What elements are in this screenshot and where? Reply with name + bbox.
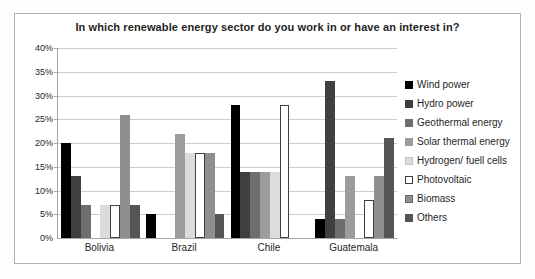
legend-item-geothermal-energy: Geothermal energy bbox=[405, 113, 510, 132]
y-tick-label-35: 35% bbox=[35, 67, 53, 77]
x-axis-label-bolivia: Bolivia bbox=[85, 242, 114, 253]
legend-item-hydro-power: Hydro power bbox=[405, 94, 510, 113]
bar-brazil-hydrogen-fuell-cells bbox=[185, 153, 195, 239]
bar-guatemala-others bbox=[384, 138, 394, 238]
legend-label-solar-thermal-energy: Solar thermal energy bbox=[417, 136, 510, 147]
legend-item-biomass: Biomass bbox=[405, 189, 510, 208]
bar-bolivia-hydro-power bbox=[71, 176, 81, 238]
legend-swatch-geothermal-energy-icon bbox=[405, 119, 413, 127]
x-axis-label-brazil: Brazil bbox=[172, 242, 197, 253]
legend-label-wind-power: Wind power bbox=[417, 79, 470, 90]
bar-brazil-solar-thermal-energy bbox=[175, 134, 185, 239]
bar-bolivia-biomass bbox=[120, 115, 130, 239]
legend-swatch-hydro-power-icon bbox=[405, 100, 413, 108]
y-tick-label-10: 10% bbox=[35, 186, 53, 196]
bar-bolivia-others bbox=[130, 205, 140, 238]
legend-swatch-solar-thermal-energy-icon bbox=[405, 138, 413, 146]
bar-chile-wind-power bbox=[231, 105, 241, 238]
legend-item-wind-power: Wind power bbox=[405, 75, 510, 94]
bar-bolivia-wind-power bbox=[61, 143, 71, 238]
legend-item-others: Others bbox=[405, 208, 510, 227]
legend-swatch-photovoltaic-icon bbox=[405, 176, 413, 184]
chart-title: In which renewable energy sector do you … bbox=[15, 21, 520, 33]
legend-swatch-wind-power-icon bbox=[405, 81, 413, 89]
y-tick bbox=[54, 143, 58, 144]
legend-swatch-biomass-icon bbox=[405, 195, 413, 203]
bar-chile-hydrogen-fuell-cells bbox=[270, 172, 280, 239]
y-tick bbox=[54, 72, 58, 73]
bar-guatemala-biomass bbox=[374, 176, 384, 238]
gridline-30 bbox=[58, 96, 397, 97]
legend-label-others: Others bbox=[417, 212, 447, 223]
y-tick-label-20: 20% bbox=[35, 138, 53, 148]
bar-chile-geothermal-energy bbox=[250, 172, 260, 239]
chart-frame: In which renewable energy sector do you … bbox=[14, 13, 521, 264]
y-tick-label-0: 0% bbox=[40, 233, 53, 243]
gridline-35 bbox=[58, 72, 397, 73]
y-tick-label-15: 15% bbox=[35, 162, 53, 172]
legend: Wind powerHydro powerGeothermal energySo… bbox=[405, 75, 510, 227]
bar-chile-photovoltaic bbox=[280, 105, 290, 238]
y-tick bbox=[54, 119, 58, 120]
legend-label-geothermal-energy: Geothermal energy bbox=[417, 117, 503, 128]
bar-guatemala-geothermal-energy bbox=[335, 219, 345, 238]
y-axis-labels: 0%5%10%15%20%25%30%35%40% bbox=[21, 48, 53, 238]
bar-guatemala-wind-power bbox=[315, 219, 325, 238]
bar-bolivia-hydrogen-fuell-cells bbox=[100, 205, 110, 238]
x-axis-label-chile: Chile bbox=[257, 242, 280, 253]
legend-label-biomass: Biomass bbox=[417, 193, 455, 204]
bar-brazil-photovoltaic bbox=[195, 153, 205, 239]
y-tick-label-30: 30% bbox=[35, 91, 53, 101]
gridline-15 bbox=[58, 167, 397, 168]
y-tick-label-40: 40% bbox=[35, 43, 53, 53]
bar-brazil-others bbox=[215, 214, 225, 238]
legend-item-solar-thermal-energy: Solar thermal energy bbox=[405, 132, 510, 151]
legend-swatch-others-icon bbox=[405, 214, 413, 222]
gridline-40 bbox=[58, 48, 397, 49]
legend-label-hydro-power: Hydro power bbox=[417, 98, 474, 109]
x-axis-labels: BoliviaBrazilChileGuatemala bbox=[57, 242, 396, 256]
bar-bolivia-geothermal-energy bbox=[81, 205, 91, 238]
y-tick bbox=[54, 48, 58, 49]
bar-brazil-wind-power bbox=[146, 214, 156, 238]
bar-brazil-biomass bbox=[205, 153, 215, 239]
legend-swatch-hydrogen-fuell-cells-icon bbox=[405, 157, 413, 165]
bar-bolivia-photovoltaic bbox=[110, 205, 120, 238]
y-tick bbox=[54, 96, 58, 97]
bar-guatemala-photovoltaic bbox=[364, 200, 374, 238]
x-axis-label-guatemala: Guatemala bbox=[329, 242, 378, 253]
gridline-25 bbox=[58, 119, 397, 120]
y-tick bbox=[54, 214, 58, 215]
legend-label-hydrogen-fuell-cells: Hydrogen/ fuell cells bbox=[417, 155, 507, 166]
y-tick-label-25: 25% bbox=[35, 114, 53, 124]
bar-guatemala-hydro-power bbox=[325, 81, 335, 238]
gridline-20 bbox=[58, 143, 397, 144]
y-tick-label-5: 5% bbox=[40, 209, 53, 219]
legend-item-hydrogen-fuell-cells: Hydrogen/ fuell cells bbox=[405, 151, 510, 170]
legend-label-photovoltaic: Photovoltaic bbox=[417, 174, 471, 185]
y-tick bbox=[54, 191, 58, 192]
y-tick bbox=[54, 167, 58, 168]
bar-chile-hydro-power bbox=[240, 172, 250, 239]
legend-item-photovoltaic: Photovoltaic bbox=[405, 170, 510, 189]
bar-guatemala-solar-thermal-energy bbox=[345, 176, 355, 238]
plot-area bbox=[57, 48, 397, 239]
bar-chile-solar-thermal-energy bbox=[260, 172, 270, 239]
